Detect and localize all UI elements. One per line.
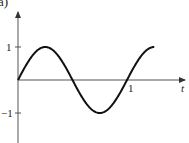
chart: a) 1 −1 1 t xyxy=(0,0,189,143)
x-tick-label-1: 1 xyxy=(128,82,134,94)
panel-label: a) xyxy=(0,0,8,9)
y-tick-label-1: 1 xyxy=(6,41,12,53)
y-tick-label-minus-1: −1 xyxy=(1,107,13,119)
x-axis-label: t xyxy=(181,82,185,94)
